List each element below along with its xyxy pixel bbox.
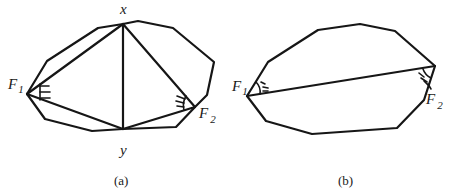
focus-label-f1-a: F1 bbox=[7, 76, 24, 95]
focus-label-f2-a: F2 bbox=[198, 105, 216, 125]
chord-f1-x bbox=[27, 24, 123, 94]
diagram-canvas: x y F1 F2 (a) F1 F2 (b) bbox=[0, 0, 451, 195]
focus-label-f2-b: F2 bbox=[425, 91, 443, 111]
panel-b: F1 F2 (b) bbox=[231, 24, 443, 188]
vertex-label-y: y bbox=[118, 142, 127, 158]
caption-a: (a) bbox=[114, 173, 128, 188]
angle-mark-f2-a bbox=[176, 96, 186, 110]
convex-polygon-a bbox=[27, 21, 214, 131]
focus-label-f1-b: F1 bbox=[231, 78, 248, 97]
angle-mark-f2-b bbox=[419, 69, 431, 89]
vertex-label-x: x bbox=[119, 1, 127, 17]
chord-f1-y bbox=[27, 94, 123, 129]
convex-polygon-b bbox=[247, 24, 435, 134]
caption-b: (b) bbox=[338, 173, 353, 188]
panel-a: x y F1 F2 (a) bbox=[7, 1, 216, 188]
angle-mark-f1-a bbox=[40, 84, 50, 100]
chord-f1-f2 bbox=[247, 66, 435, 96]
